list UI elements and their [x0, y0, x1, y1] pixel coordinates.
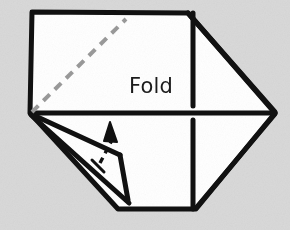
fold-diagram-figure: Fold	[0, 0, 290, 230]
fold-label: Fold	[129, 76, 173, 97]
paper-diagram-svg	[0, 0, 290, 230]
